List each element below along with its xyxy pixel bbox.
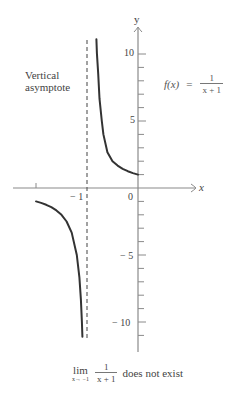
formula-fraction: 1 x + 1 [200, 73, 223, 95]
y-tick-label-10: 10 [124, 47, 134, 58]
caption-numerator: 1 [102, 362, 111, 372]
limit-operator: lim x→ −1 [72, 364, 89, 383]
x-tick-label-neg1: − 1 [70, 191, 83, 202]
caption-denominator: x + 1 [95, 372, 118, 384]
formula-equals: = [186, 78, 192, 90]
y-ticks [138, 54, 146, 335]
y-tick-label-5: 5 [130, 114, 135, 125]
function-graph [0, 0, 250, 397]
asymptote-annotation-line2: asymptote [25, 81, 70, 93]
function-formula: f(x) = 1 x + 1 [164, 73, 223, 95]
limit-word: lim [73, 364, 88, 376]
curve-right-branch [96, 39, 138, 174]
y-tick-label-neg10: − 10 [112, 317, 130, 328]
asymptote-annotation-line1: Vertical [25, 69, 70, 81]
formula-lhs: f(x) [164, 78, 179, 90]
limit-subscript: x→ −1 [72, 376, 89, 383]
curve-left-branch [36, 201, 82, 336]
limit-caption: lim x→ −1 1 x + 1 does not exist [72, 362, 183, 384]
x-axis-label: x [199, 181, 204, 193]
x-tick-label-0: 0 [128, 191, 133, 202]
caption-text: does not exist [122, 367, 183, 379]
formula-denominator: x + 1 [200, 83, 223, 95]
y-axis-label: y [134, 13, 140, 25]
asymptote-annotation: Vertical asymptote [25, 69, 70, 93]
y-tick-label-neg5: − 5 [120, 250, 133, 261]
formula-numerator: 1 [208, 73, 217, 83]
caption-fraction: 1 x + 1 [95, 362, 118, 384]
